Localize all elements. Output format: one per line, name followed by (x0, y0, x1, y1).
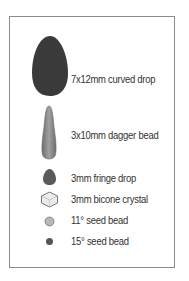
legend-label-curved-drop: 7x12mm curved drop (71, 73, 155, 85)
curved-drop-icon (30, 35, 70, 97)
legend-label-seed-bead-15: 15° seed bead (71, 235, 129, 247)
legend-label-dagger-bead: 3x10mm dagger bead (71, 129, 158, 141)
bicone-crystal-icon (40, 191, 59, 208)
dagger-bead-icon (39, 105, 59, 161)
legend-label-bicone-crystal: 3mm bicone crystal (71, 193, 148, 205)
seed-bead-15-icon (45, 237, 54, 246)
seed-bead-11-icon (44, 216, 55, 227)
fringe-drop-icon (42, 168, 57, 186)
legend-label-seed-bead-11: 11° seed bead (71, 214, 128, 226)
legend-label-fringe-drop: 3mm fringe drop (71, 172, 136, 184)
